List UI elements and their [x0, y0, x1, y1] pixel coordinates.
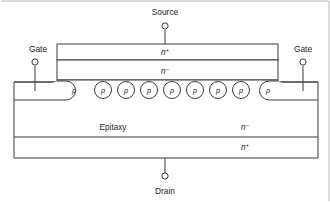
device-cross-section-figure: p p p p p p p p p n	[0, 0, 330, 202]
gate-left-label: Gate	[29, 44, 47, 54]
drain-terminal-node[interactable]	[162, 173, 168, 179]
gate-right-terminal-node[interactable]	[300, 59, 306, 65]
gate-right-label: Gate	[294, 44, 312, 54]
p-region-label: p	[146, 86, 151, 95]
p-region-label: p	[238, 86, 243, 95]
gate-left-terminal-node[interactable]	[32, 59, 38, 65]
epitaxy-label: Epitaxy	[100, 123, 128, 132]
source-terminal-node[interactable]	[162, 23, 168, 29]
drain-label: Drain	[155, 186, 175, 196]
p-region-label: p	[100, 86, 105, 95]
device-diagram: p p p p p p p p p n	[0, 0, 330, 202]
p-region-edge-right-label: p	[265, 86, 270, 95]
p-region-label: p	[123, 86, 128, 95]
p-region-edge-left-label: p	[71, 86, 76, 95]
p-region-label: p	[192, 86, 197, 95]
source-label: Source	[152, 7, 179, 17]
p-region-label: p	[169, 86, 174, 95]
p-region-label: p	[215, 86, 220, 95]
